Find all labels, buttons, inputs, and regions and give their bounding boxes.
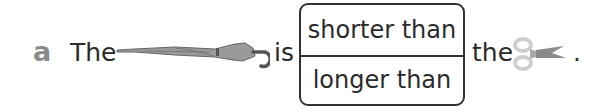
choice-shorter-than[interactable]: shorter than — [301, 16, 463, 44]
word-the-2: the — [472, 38, 513, 67]
period: . — [573, 38, 581, 67]
word-the: The — [70, 38, 117, 67]
umbrella-icon — [115, 38, 270, 70]
word-is: is — [274, 38, 294, 67]
exercise-label: a — [33, 36, 51, 67]
scissors-icon — [512, 36, 570, 72]
choice-box: shorter than longer than — [299, 3, 465, 106]
choice-longer-than[interactable]: longer than — [301, 66, 463, 94]
choice-divider — [301, 55, 463, 57]
